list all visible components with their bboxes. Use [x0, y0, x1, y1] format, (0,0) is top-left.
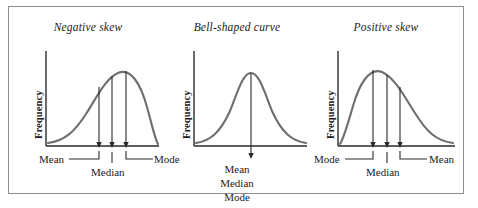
- label-median: Median: [91, 166, 125, 178]
- mode-arrowhead: [123, 142, 128, 148]
- median-arrowhead: [384, 142, 389, 148]
- mean-leader-line: [69, 151, 99, 159]
- label-mean: Mean: [39, 153, 64, 165]
- mode-leader-line: [126, 151, 153, 159]
- positive-skew-curve: [340, 71, 453, 144]
- label-mode: Mode: [314, 153, 340, 165]
- label-median: Median: [366, 166, 400, 178]
- figure-frame: Negative skew Frequency Mean: [8, 6, 464, 194]
- label-mean: Mean: [429, 153, 454, 165]
- mean-arrowhead: [397, 142, 402, 148]
- median-arrowhead: [109, 142, 114, 148]
- negative-skew-plot: [13, 7, 163, 195]
- label-mean: Mean: [163, 162, 311, 176]
- negative-skew-curve: [48, 72, 158, 144]
- panel-bell-shaped-curve: Bell-shaped curve Frequency Mean Median …: [163, 7, 311, 195]
- panel-negative-skew: Negative skew Frequency Mean: [13, 7, 163, 195]
- mean-leader-line: [400, 151, 427, 159]
- panel-positive-skew: Positive skew Frequency Mode: [311, 7, 461, 195]
- mode-leader-line: [345, 151, 373, 159]
- label-median: Median: [163, 176, 311, 190]
- center-stat-labels: Mean Median Mode: [163, 162, 311, 204]
- mode-arrowhead: [370, 142, 375, 148]
- label-mode: Mode: [163, 190, 311, 204]
- mean-arrowhead: [96, 142, 101, 148]
